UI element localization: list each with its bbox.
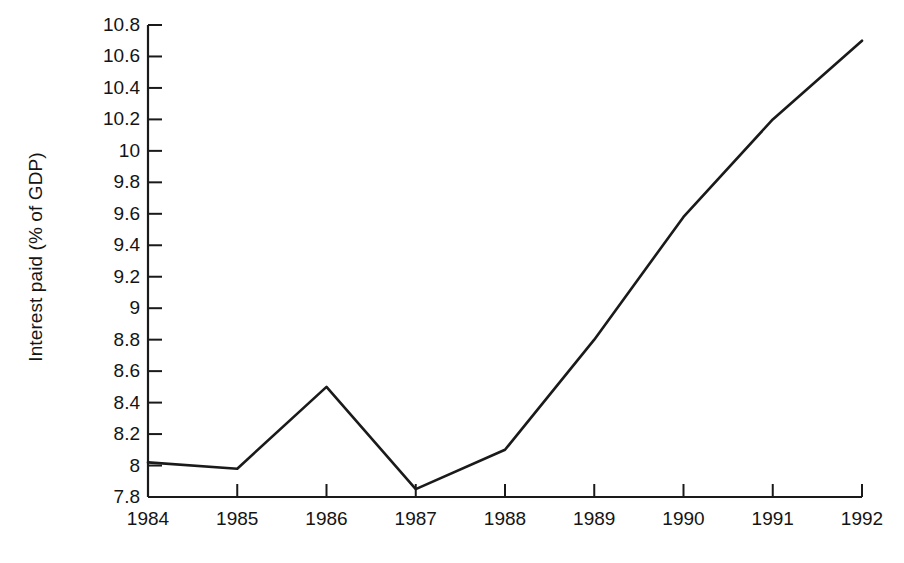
axis-lines <box>148 25 862 497</box>
data-series-group <box>148 41 862 489</box>
data-line-series-0 <box>148 41 862 489</box>
chart-container: Interest paid (% of GDP) 10.810.610.410.… <box>0 0 904 563</box>
x-axis-ticks <box>148 484 862 497</box>
y-axis-ticks <box>148 25 162 466</box>
plot-area <box>0 0 904 563</box>
